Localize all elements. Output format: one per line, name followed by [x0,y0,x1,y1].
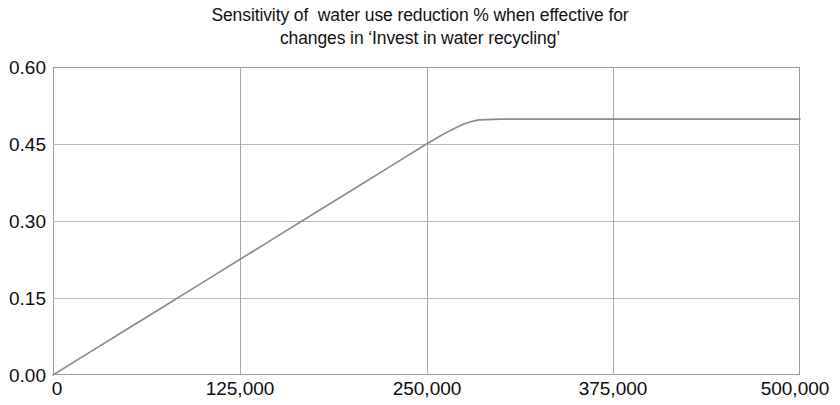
series-line-water-use-reduction [53,67,800,375]
xtick-label-0: 0 [52,379,63,398]
xtick-label-2: 250,000 [393,379,462,398]
xtick-label-3: 375,000 [579,379,648,398]
ytick-label-1: 0.45 [9,135,46,154]
ytick-label-4: 0.00 [9,366,46,385]
plot-area [53,67,800,375]
ytick-label-0: 0.60 [9,58,46,77]
chart-title: Sensitivity of water use reduction % whe… [0,4,840,50]
xtick-label-4: 500,000 [761,379,830,398]
ytick-label-2: 0.30 [9,212,46,231]
ytick-label-3: 0.15 [9,289,46,308]
xtick-label-1: 125,000 [206,379,275,398]
sensitivity-chart-figure: Sensitivity of water use reduction % whe… [0,0,840,405]
